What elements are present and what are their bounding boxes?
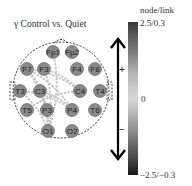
- svg-text:F4: F4: [72, 65, 82, 74]
- svg-text:P4: P4: [67, 106, 77, 115]
- node-t5: T5: [21, 104, 34, 117]
- node-c4: C4: [74, 85, 87, 98]
- node-f3: F3: [38, 63, 51, 76]
- svg-text:T4: T4: [95, 87, 105, 96]
- colorbar-min-label: −2.5/−0.3: [140, 170, 175, 180]
- colorbar: [128, 22, 138, 175]
- node-f4: F4: [71, 63, 84, 76]
- plus-sign: +: [119, 64, 125, 75]
- svg-text:F8: F8: [90, 65, 100, 74]
- node-fp1: Fp1: [46, 46, 60, 59]
- node-f7: F7: [21, 63, 34, 76]
- svg-text:Fp2: Fp2: [65, 48, 79, 57]
- node-c3: C3: [34, 85, 47, 98]
- node-f8: F8: [89, 63, 102, 76]
- node-t6: T6: [89, 104, 102, 117]
- svg-text:O2: O2: [67, 127, 78, 136]
- svg-text:F7: F7: [22, 65, 32, 74]
- svg-text:Fp1: Fp1: [46, 48, 60, 57]
- node-o1: O1: [42, 125, 55, 138]
- svg-text:F3: F3: [39, 65, 49, 74]
- colorbar-title: node/link: [140, 5, 174, 15]
- colorbar-mid-label: 0: [141, 94, 146, 104]
- node-fp2: Fp2: [65, 46, 79, 59]
- svg-text:C4: C4: [75, 87, 86, 96]
- svg-text:O1: O1: [43, 127, 54, 136]
- svg-text:T5: T5: [22, 106, 32, 115]
- node-t4: T4: [94, 85, 107, 98]
- colorbar-max-label: 2.5/0.3: [140, 18, 165, 28]
- minus-sign: −: [119, 124, 125, 135]
- svg-text:P3: P3: [42, 106, 52, 115]
- node-t3: T3: [14, 85, 27, 98]
- arrow: [110, 36, 126, 162]
- svg-text:C3: C3: [35, 87, 46, 96]
- node-o2: O2: [66, 125, 79, 138]
- node-p3: P3: [41, 104, 54, 117]
- svg-text:T3: T3: [15, 87, 25, 96]
- svg-text:T6: T6: [90, 106, 100, 115]
- node-p4: P4: [66, 104, 79, 117]
